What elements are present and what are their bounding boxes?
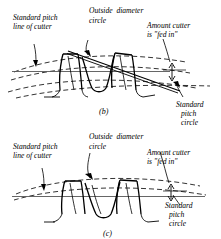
gear-cutter-diagram: Standard pitch line of cutter Outside di… [0, 0, 221, 239]
label-pitch-circle-b-line3: circle [181, 118, 199, 127]
label-pitch-circle-b-line1: Standard [176, 100, 204, 109]
label-pitch-circle-b-line2: pitch [180, 109, 196, 118]
label-pitch-line-b-line1: Standard pitch [13, 13, 58, 22]
label-pitch-circle-c-line3: circle [169, 219, 187, 228]
label-pitch-circle-c-line1: Standard [165, 201, 193, 210]
label-outside-diameter-b-line1: Outside diameter [89, 6, 143, 15]
label-feed-in-c-line1: Amount cutter [146, 148, 190, 157]
label-feed-in-b-line2: is "fed in" [147, 30, 178, 39]
label-pitch-line-c-line1: Standard pitch [13, 142, 58, 151]
label-outside-diameter-c-line1: Outside diameter [89, 132, 143, 141]
label-feed-in-c-line2: is "fed in" [147, 157, 178, 166]
figure-root: Standard pitch line of cutter Outside di… [0, 0, 221, 239]
label-pitch-line-c-line2: line of cutter [13, 151, 52, 160]
label-pitch-circle-c-line2: pitch [168, 210, 184, 219]
label-outside-diameter-b-line2: circle [89, 16, 107, 25]
label-pitch-line-b-line2: line of cutter [13, 22, 52, 31]
caption-c: (c) [103, 229, 112, 238]
label-feed-in-b-line1: Amount cutter [146, 21, 190, 30]
caption-b: (b) [99, 107, 109, 116]
label-outside-diameter-c-line2: circle [89, 142, 107, 151]
